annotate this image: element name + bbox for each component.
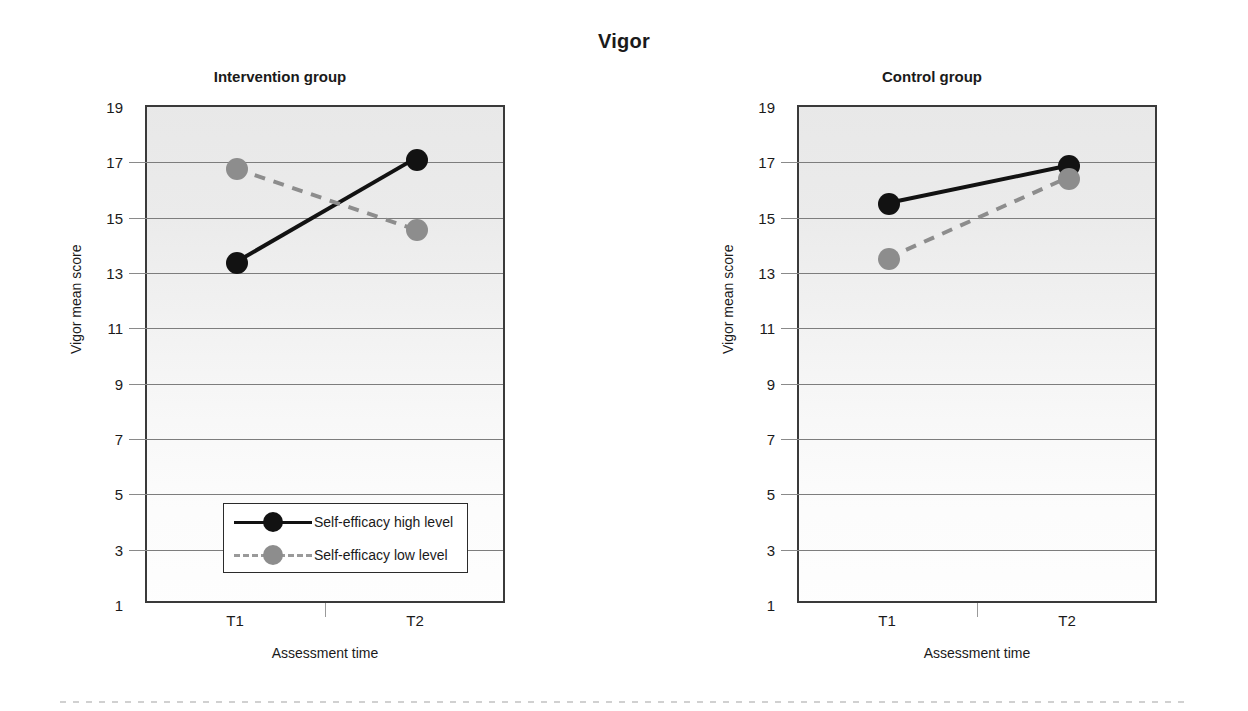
y-axis-tick-mark	[129, 550, 147, 551]
y-axis-tick-mark	[781, 494, 799, 495]
y-axis-tick-label: 15	[735, 209, 775, 226]
data-point-high-t1	[226, 252, 248, 274]
data-point-high-t2	[406, 149, 428, 171]
x-axis-center-tick-mark	[977, 603, 978, 617]
legend-item-low: Self-efficacy low level	[224, 537, 467, 572]
legend-swatch-low-icon	[232, 543, 314, 567]
y-axis-tick-label: 11	[735, 320, 775, 337]
plot-area-control: 191715131197531	[797, 105, 1157, 603]
y-axis-tick-mark	[781, 328, 799, 329]
scan-artifact	[60, 701, 1190, 703]
legend-label-high: Self-efficacy high level	[314, 514, 453, 530]
y-axis-tick-label: 3	[83, 541, 123, 558]
y-axis-tick-mark	[781, 439, 799, 440]
y-axis-tick-label: 13	[735, 265, 775, 282]
y-axis-tick-label: 9	[83, 375, 123, 392]
series-line-low	[236, 169, 414, 229]
x-axis-tick-label: T1	[878, 612, 896, 629]
y-axis-tick-label: 13	[83, 265, 123, 282]
series-line-high	[236, 159, 414, 262]
y-axis-tick-label: 17	[735, 154, 775, 171]
y-axis-tick-label: 15	[83, 209, 123, 226]
y-axis-tick-label: 19	[83, 99, 123, 116]
y-axis-tick-label: 5	[735, 486, 775, 503]
panel-title-control: Control group	[672, 68, 1192, 85]
legend-item-high: Self-efficacy high level	[224, 504, 467, 539]
legend-swatch-high-icon	[232, 510, 314, 534]
y-axis-tick-label: 19	[735, 99, 775, 116]
y-axis-tick-label: 1	[83, 597, 123, 614]
y-axis-tick-label: 7	[83, 431, 123, 448]
y-axis-tick-label: 3	[735, 541, 775, 558]
y-axis-tick-mark	[781, 273, 799, 274]
data-point-low-t1	[878, 248, 900, 270]
y-axis-tick-mark	[129, 273, 147, 274]
y-axis-tick-label: 9	[735, 375, 775, 392]
legend-label-low: Self-efficacy low level	[314, 547, 448, 563]
panel-title-intervention: Intervention group	[20, 68, 540, 85]
x-axis-tick-label: T2	[406, 612, 424, 629]
y-axis-tick-mark	[129, 384, 147, 385]
y-axis-tick-mark	[781, 162, 799, 163]
data-point-low-t2	[1058, 168, 1080, 190]
data-point-high-t1	[878, 193, 900, 215]
x-axis-center-tick-mark	[325, 603, 326, 617]
y-axis-tick-mark	[129, 162, 147, 163]
y-axis-tick-mark	[781, 384, 799, 385]
figure-vigor: Vigor Intervention group Vigor mean scor…	[0, 0, 1248, 711]
y-axis-tick-label: 17	[83, 154, 123, 171]
y-axis-tick-mark	[781, 550, 799, 551]
x-axis-tick-label: T2	[1058, 612, 1076, 629]
y-axis-title-right: Vigor mean score	[720, 245, 736, 354]
y-axis-tick-mark	[129, 439, 147, 440]
x-axis-title-right: Assessment time	[797, 645, 1157, 661]
y-axis-tick-label: 1	[735, 597, 775, 614]
y-axis-tick-mark	[129, 328, 147, 329]
panel-intervention-group: Intervention group Vigor mean score Asse…	[20, 0, 540, 711]
series-line-low	[888, 178, 1066, 258]
y-axis-title-left: Vigor mean score	[68, 245, 84, 354]
series-lines	[799, 107, 1155, 601]
panel-control-group: Control group Vigor mean score Assessmen…	[672, 0, 1192, 711]
x-axis-title-left: Assessment time	[145, 645, 505, 661]
y-axis-tick-label: 11	[83, 320, 123, 337]
legend-box: Self-efficacy high level Self-efficacy l…	[223, 503, 468, 573]
data-point-low-t2	[406, 219, 428, 241]
y-axis-tick-mark	[781, 218, 799, 219]
data-point-low-t1	[226, 158, 248, 180]
y-axis-tick-label: 5	[83, 486, 123, 503]
y-axis-tick-mark	[129, 218, 147, 219]
y-axis-tick-label: 7	[735, 431, 775, 448]
series-line-high	[888, 166, 1066, 203]
y-axis-tick-mark	[129, 494, 147, 495]
x-axis-tick-label: T1	[226, 612, 244, 629]
